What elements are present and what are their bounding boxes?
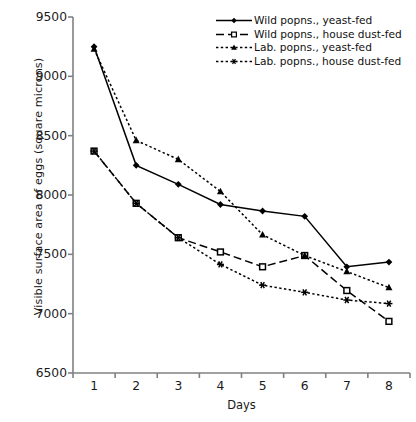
legend-item: Lab. popns., yeast-fed — [214, 41, 414, 55]
data-point-filled-diamond — [386, 259, 393, 266]
series-1 — [91, 148, 392, 324]
legend-label: Lab. popns., house dust-fed — [254, 55, 401, 68]
legend-marker-asterisk-icon — [214, 55, 254, 68]
legend-item: Wild popns., house dust-fed — [214, 28, 414, 42]
data-point-asterisk — [301, 289, 308, 295]
data-point-filled-diamond — [133, 162, 140, 169]
data-point-open-square — [344, 288, 350, 294]
data-point-asterisk — [231, 59, 237, 64]
data-point-filled-triangle — [133, 137, 140, 144]
data-point-asterisk — [385, 301, 392, 307]
legend-item: Lab. popns., house dust-fed — [214, 55, 414, 69]
data-point-filled-triangle — [217, 188, 224, 195]
data-point-open-square — [386, 318, 392, 324]
data-point-filled-diamond — [175, 181, 182, 188]
data-point-asterisk — [343, 297, 350, 303]
legend-item: Wild popns., yeast-fed — [214, 14, 414, 28]
line-chart: Visible surface area of eggs (square mic… — [0, 0, 416, 422]
legend-marker-filled-triangle-icon — [214, 41, 254, 54]
legend-label: Lab. popns., yeast-fed — [254, 41, 372, 54]
legend-label: Wild popns., yeast-fed — [254, 14, 372, 27]
data-point-open-square — [232, 32, 237, 37]
chart-legend: Wild popns., yeast-fedWild popns., house… — [214, 14, 414, 68]
legend-marker-open-square-icon — [214, 28, 254, 41]
legend-marker-filled-diamond-icon — [214, 14, 254, 27]
series-0 — [91, 43, 393, 270]
data-point-open-square — [260, 264, 266, 270]
data-point-filled-diamond — [231, 18, 237, 24]
legend-label: Wild popns., house dust-fed — [254, 28, 402, 41]
data-point-open-square — [218, 249, 224, 255]
data-point-filled-diamond — [259, 208, 266, 215]
axes — [73, 17, 410, 373]
data-point-filled-triangle — [343, 268, 350, 275]
data-point-filled-diamond — [217, 201, 224, 208]
data-point-asterisk — [259, 282, 266, 288]
series-3 — [91, 148, 393, 307]
